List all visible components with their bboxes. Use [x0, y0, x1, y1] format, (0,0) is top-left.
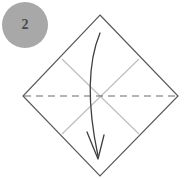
origami-step-diagram: 2	[0, 0, 186, 178]
diagram-canvas: 2	[0, 0, 186, 178]
step-number-label: 2	[22, 17, 29, 32]
